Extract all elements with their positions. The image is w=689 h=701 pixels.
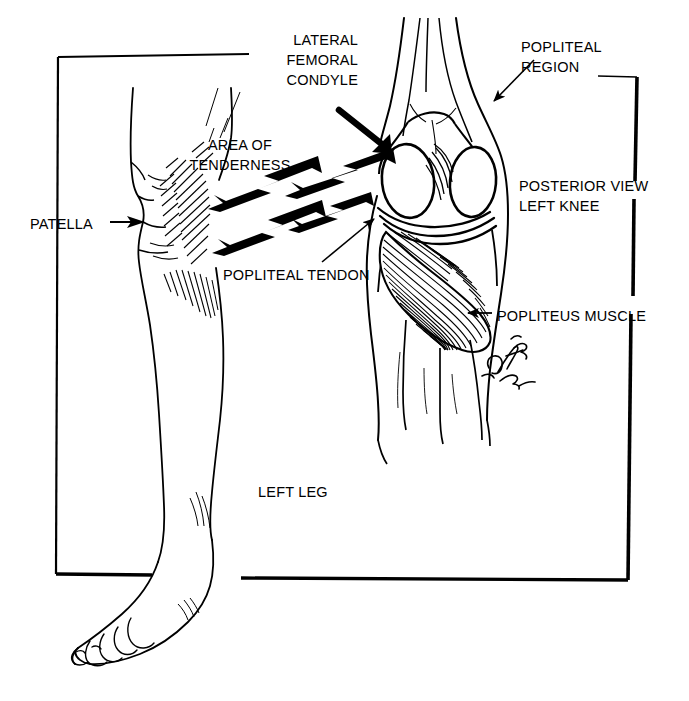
lateral-femoral-condyle-pointer — [339, 110, 392, 154]
label-left-leg: LEFT LEG — [258, 482, 328, 502]
label-popliteal-region: POPLITEAL REGION — [521, 37, 641, 77]
ankle-creases — [178, 492, 210, 620]
posterior-knee-outline — [367, 18, 508, 440]
tenderness-streaks — [206, 88, 240, 142]
knee-skin-creases — [148, 175, 178, 259]
medial-femoral-condyle — [447, 145, 499, 219]
label-lateral-femoral-condyle: LATERAL FEMORAL CONDYLE — [258, 30, 358, 90]
label-popliteal-tendon: POPLITEAL TENDON — [223, 265, 370, 285]
calf-shading-hatching — [164, 270, 218, 318]
toes — [72, 618, 154, 666]
label-patella: PATELLA — [30, 214, 93, 234]
illustration-canvas — [0, 0, 689, 701]
label-posterior-view-left-knee: POSTERIOR VIEW LEFT KNEE — [519, 176, 669, 216]
label-popliteus-muscle: POPLITEUS MUSCLE — [497, 306, 646, 326]
label-area-of-tenderness: AREA OF TENDERNESS — [180, 135, 300, 175]
anatomy-figure: LATERAL FEMORAL CONDYLE POPLITEAL REGION… — [0, 0, 689, 701]
popliteus-muscle — [380, 232, 491, 352]
posterior-calf-lines — [398, 352, 457, 414]
